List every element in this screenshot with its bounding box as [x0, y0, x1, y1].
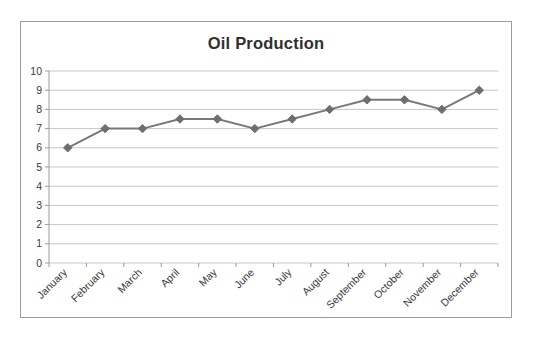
- x-axis-tick-label: August: [299, 266, 331, 298]
- data-point-marker: [176, 115, 184, 123]
- data-point-marker: [325, 105, 333, 113]
- y-axis-tick-label: 5: [36, 161, 42, 173]
- data-point-marker: [213, 115, 221, 123]
- y-axis-tick-label: 3: [36, 199, 42, 211]
- x-axis-tick-label: February: [68, 265, 107, 304]
- data-point-marker: [288, 115, 296, 123]
- data-point-marker: [363, 96, 371, 104]
- x-axis-tick-label: October: [371, 266, 406, 301]
- data-point-marker: [438, 105, 446, 113]
- y-axis-tick-label: 10: [30, 65, 42, 77]
- data-point-marker: [101, 124, 109, 132]
- x-axis-tick-label: July: [272, 265, 294, 287]
- x-axis-tick-label: December: [438, 266, 481, 309]
- data-point-marker: [251, 124, 259, 132]
- x-axis-tick-label: May: [196, 265, 219, 288]
- gridlines: [49, 71, 498, 263]
- x-axis-tick-marks: [49, 263, 498, 267]
- data-point-marker: [475, 86, 483, 94]
- line-chart-plot: 012345678910 JanuaryFebruaryMarchAprilMa…: [21, 22, 513, 319]
- x-axis-tick-label: November: [401, 266, 444, 309]
- y-axis-tick-labels: 012345678910: [30, 65, 42, 269]
- y-axis-tick-label: 0: [36, 257, 42, 269]
- x-axis-tick-label: September: [324, 266, 369, 311]
- y-axis-tick-marks: [45, 71, 49, 263]
- x-axis-tick-label: March: [115, 266, 144, 295]
- x-axis-tick-label: June: [232, 266, 257, 291]
- y-axis-tick-label: 9: [36, 84, 42, 96]
- data-point-markers: [64, 86, 484, 152]
- y-axis-tick-label: 1: [36, 237, 42, 249]
- y-axis-tick-label: 6: [36, 141, 42, 153]
- x-axis-tick-label: January: [34, 265, 69, 300]
- y-axis-tick-label: 7: [36, 122, 42, 134]
- x-axis-tick-label: April: [158, 266, 181, 289]
- y-axis-tick-label: 4: [36, 180, 42, 192]
- data-point-marker: [400, 96, 408, 104]
- y-axis-tick-label: 8: [36, 103, 42, 115]
- chart-container: Oil Production 012345678910 JanuaryFebru…: [20, 21, 512, 318]
- data-point-marker: [64, 144, 72, 152]
- y-axis-tick-label: 2: [36, 218, 42, 230]
- data-series-line: [68, 90, 480, 148]
- x-axis-tick-labels: JanuaryFebruaryMarchAprilMayJuneJulyAugu…: [34, 265, 481, 310]
- data-point-marker: [138, 124, 146, 132]
